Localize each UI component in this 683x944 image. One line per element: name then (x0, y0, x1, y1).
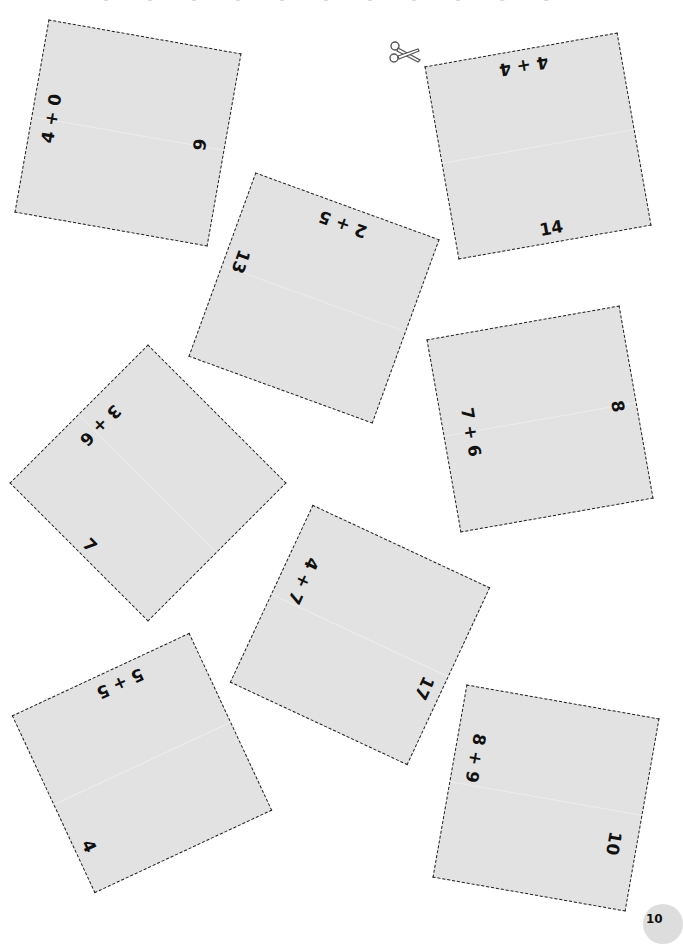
card-problem: 7 + 6 (457, 406, 485, 458)
card-problem: 4 + 7 (284, 554, 323, 608)
card-answer: 8 (607, 399, 629, 414)
flashcard-8: 8 + 9 10 (432, 684, 659, 911)
flashcard-6: 4 + 7 17 (230, 505, 490, 765)
fold-line (54, 722, 230, 805)
card-answer: 4 (78, 837, 101, 856)
card-problem: 8 + 9 (462, 732, 490, 784)
page-title-partial: · · · · · · · · · · · (0, 0, 666, 11)
card-answer: 13 (227, 247, 254, 276)
card-answer: 9 (189, 137, 211, 152)
fold-line (223, 265, 406, 332)
fold-line (442, 129, 633, 164)
card-problem: 4 + 0 (37, 92, 65, 144)
flashcard-4: 7 + 6 8 (426, 305, 653, 532)
scissors-icon (388, 40, 422, 68)
card-answer: 14 (538, 216, 565, 240)
fold-line (450, 781, 641, 816)
flashcard-3: 2 + 5 13 (188, 172, 439, 423)
flashcard-1: 4 + 0 9 (14, 19, 241, 246)
flashcard-5: 3 + 6 7 (9, 344, 286, 621)
card-problem: 5 + 5 (94, 664, 148, 703)
card-problem: 4 + 4 (498, 52, 550, 80)
card-answer: 7 (79, 534, 102, 557)
card-answer: 10 (602, 830, 626, 857)
card-answer: 17 (410, 673, 438, 703)
flashcard-7: 5 + 5 4 (12, 633, 272, 893)
flashcard-2: 4 + 4 14 (424, 32, 651, 259)
card-problem: 3 + 6 (76, 401, 125, 450)
page-number-badge: 10 (643, 904, 683, 944)
card-problem: 2 + 5 (316, 207, 370, 243)
